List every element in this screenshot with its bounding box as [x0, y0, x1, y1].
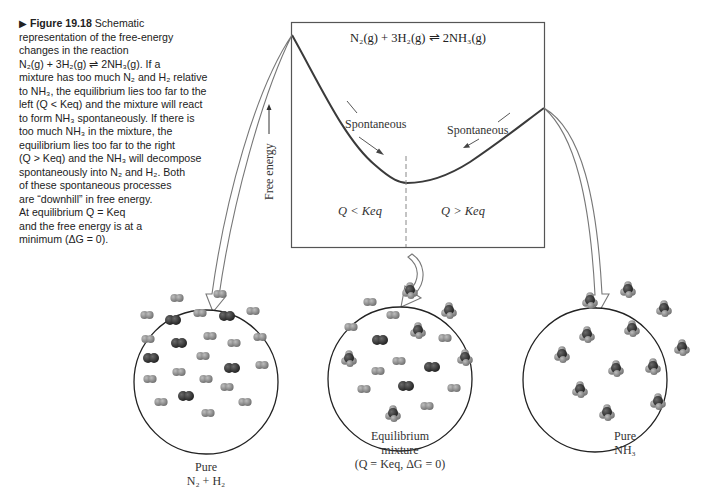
- panel-3-line2: NH₃: [614, 443, 636, 457]
- free-energy-curve: [292, 35, 544, 183]
- middle-hollow-arrow-icon: [401, 254, 423, 307]
- right-spontaneous-label: Spontaneous: [447, 123, 509, 137]
- right-spontaneous-arrow-tail: [498, 113, 510, 122]
- y-axis-arrowhead-icon: [267, 104, 272, 110]
- panel-equilibrium-mixture: [328, 282, 473, 451]
- left-spontaneous-label: Spontaneous: [345, 117, 407, 131]
- diagram-canvas: N₂(g) + 3H₂(g) ⇌ 2NH₃(g) Free energy Spo…: [0, 0, 710, 491]
- panel-1-line1: Pure: [195, 460, 217, 474]
- panel-2-line3: (Q = Keq, ΔG = 0): [355, 457, 446, 471]
- right-region-label: Q > Keq: [441, 204, 485, 218]
- panel-pure-n2-h2: [134, 290, 278, 454]
- y-axis-label-group: Free energy: [262, 104, 276, 200]
- panel-2-line1: Equilibrium: [371, 429, 430, 443]
- left-hollow-arrow-icon: [206, 35, 292, 312]
- panel-1-line2: N₂ + H₂: [187, 474, 225, 488]
- left-spontaneous-arrow-tail: [347, 101, 357, 113]
- y-axis-label: Free energy: [262, 143, 276, 200]
- panel-3-line1: Pure: [614, 429, 636, 443]
- right-spontaneous-arrow-icon: [467, 139, 479, 146]
- right-arrowhead-icon: [463, 143, 470, 148]
- panel-pure-nh3: [523, 281, 690, 452]
- reaction-equation: N₂(g) + 3H₂(g) ⇌ 2NH₃(g): [350, 31, 486, 45]
- left-region-label: Q < Keq: [338, 204, 382, 218]
- left-spontaneous-arrow-icon: [359, 137, 380, 152]
- right-hollow-arrow-icon: [544, 108, 609, 312]
- panel-2-line2: mixture: [381, 443, 418, 457]
